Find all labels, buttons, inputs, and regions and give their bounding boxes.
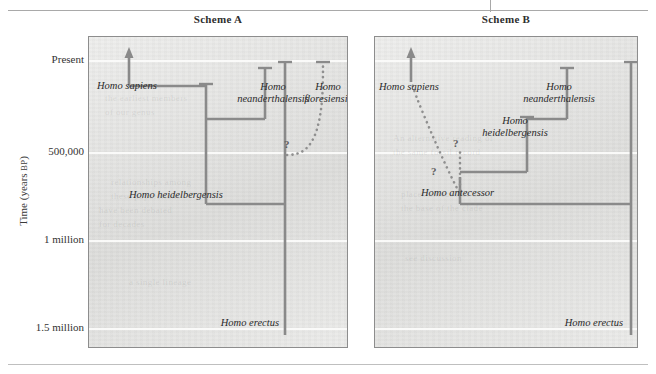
taxon-label-homo-erectus-b: Homo erectus: [525, 317, 623, 329]
tick-label-1-million: 1 million: [14, 233, 84, 245]
taxon-label-homo-heidelbergensis-b: Homo heidelbergensis: [461, 115, 569, 138]
taxon-label-homo-heidelbergensis-a: Homo heidelbergensis: [129, 189, 223, 201]
page-rule-tick: [490, 0, 491, 12]
scheme-b-title: Scheme B: [446, 13, 566, 25]
scheme-a-panel: the earliest members of our genus relati…: [88, 36, 348, 348]
time-axis: Time (years BP) Present 500,000 1 millio…: [0, 0, 84, 374]
arrowhead-homo-sapiens-b: [407, 47, 416, 58]
taxon-label-homo-sapiens-a: Homo sapiens: [97, 80, 157, 92]
uncertain-link-floresiensis-a: [287, 63, 323, 155]
taxon-label-homo-antecessor-b: Homo antecessor: [421, 187, 494, 199]
taxon-label-homo-erectus-a: Homo erectus: [181, 317, 279, 329]
taxon-label-homo-sapiens-b: Homo sapiens: [379, 81, 439, 93]
page-rule-bottom: [8, 364, 648, 365]
taxon-label-homo-neanderthalensis-b: Homo neanderthalensis: [501, 81, 617, 104]
tick-label-1-5-million: 1.5 million: [14, 321, 84, 333]
axis-title-bp: BP: [19, 160, 29, 171]
question-mark-floresiensis-a: ?: [284, 138, 290, 150]
tick-label-present: Present: [14, 53, 84, 65]
tick-label-500000: 500,000: [14, 145, 84, 157]
axis-title-main: Time (years: [17, 171, 29, 226]
scheme-a-title: Scheme A: [158, 13, 278, 25]
question-mark-heidelbergensis-b: ?: [453, 137, 459, 149]
scheme-b-panel: An alternative reading of the same fossi…: [374, 36, 638, 348]
question-mark-sapiens-b: ?: [431, 165, 437, 177]
page-rule-top: [8, 10, 648, 11]
taxon-label-homo-floresiensis-a: Homo floresiensis: [285, 81, 348, 104]
arrowhead-homo-sapiens-a: [125, 47, 134, 58]
figure-root: Time (years BP) Present 500,000 1 millio…: [0, 0, 656, 374]
